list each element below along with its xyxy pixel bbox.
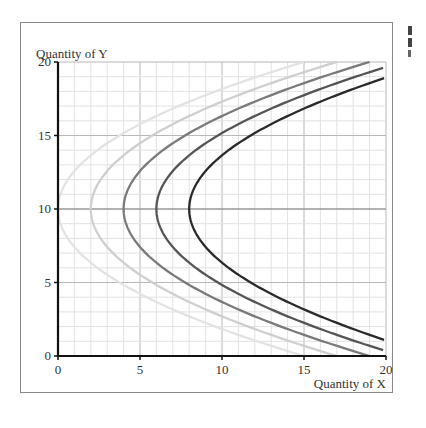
x-tick-label: 5 [137, 362, 144, 377]
x-tick-label: 20 [380, 362, 393, 377]
y-tick-label: 0 [45, 348, 52, 363]
chart-plot: 0510152005101520 Quantity of Y Quantity … [0, 0, 426, 428]
y-axis-label: Quantity of Y [36, 46, 108, 61]
x-tick-label: 10 [216, 362, 229, 377]
x-tick-label: 15 [298, 362, 311, 377]
y-tick-label: 10 [38, 201, 51, 216]
x-tick-label: 0 [55, 362, 62, 377]
x-axis-label: Quantity of X [314, 376, 387, 391]
y-tick-label: 5 [45, 275, 52, 290]
grid [58, 62, 386, 356]
y-tick-label: 15 [38, 128, 51, 143]
